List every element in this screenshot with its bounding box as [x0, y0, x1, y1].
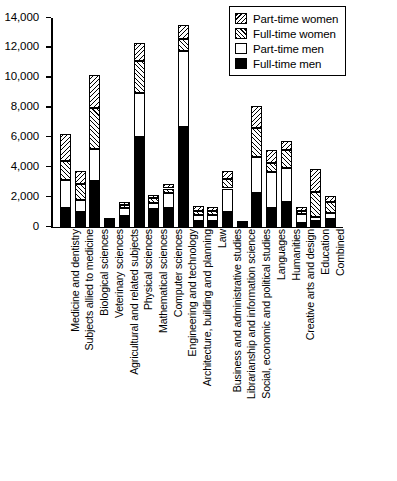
- stacked-bar: [75, 171, 86, 227]
- x-axis-label: Law: [217, 229, 228, 248]
- bar-segment-ptw: [325, 196, 336, 202]
- bar-segment-ftw: [163, 189, 174, 193]
- bar-segment-ftm: [296, 223, 307, 227]
- chart-figure: 02,0004,0006,0008,00010,00012,00014,000 …: [0, 0, 397, 481]
- x-axis-label: Physical sciences: [143, 229, 154, 310]
- bar-segment-ftm: [193, 221, 204, 227]
- bar-segment-ptw: [119, 202, 130, 205]
- bar-segment-ftm: [325, 219, 336, 227]
- bar-segment-ftw: [89, 108, 100, 150]
- stacked-bar: [60, 134, 71, 227]
- x-axis-label: Mathematical sciences: [158, 229, 169, 333]
- bar-segment-ftw: [266, 163, 277, 172]
- stacked-bar: [251, 106, 262, 227]
- legend-label: Full-time men: [253, 58, 321, 70]
- bar-segment-ptw: [237, 221, 248, 223]
- bar-segment-ptm: [60, 180, 71, 208]
- bar-segment-ptw: [296, 207, 307, 211]
- bar-segment-ftw: [222, 179, 233, 188]
- bar-segment-ptm: [148, 203, 159, 209]
- bar-segment-ptw: [266, 150, 277, 162]
- legend-label: Part-time men: [253, 43, 324, 55]
- y-axis-tick-label: 8,000: [11, 100, 39, 112]
- y-axis-tick-label: 4,000: [11, 160, 39, 172]
- bar-segment-ptw: [134, 43, 145, 60]
- bar-segment-ftm: [119, 216, 130, 227]
- bar-segment-ftm: [60, 208, 71, 227]
- y-axis-tick: 6,000: [46, 136, 51, 137]
- bar-segment-ptw: [310, 169, 321, 192]
- stacked-bar: [222, 171, 233, 227]
- x-axis-label: Biological sciences: [99, 229, 110, 316]
- full-time-men-swatch-icon: [235, 58, 247, 69]
- bar-segment-ftm: [148, 209, 159, 227]
- bar-segment-ptw: [178, 25, 189, 39]
- stacked-bar: [163, 184, 174, 227]
- chart-legend: Part-time women Full-time women Part-tim…: [229, 6, 346, 76]
- stacked-bar: [119, 202, 130, 227]
- bar-segment-ftw: [310, 192, 321, 217]
- stacked-bar: [178, 25, 189, 227]
- bar-segment-ptm: [89, 149, 100, 180]
- bar-segment-ftw: [281, 150, 292, 168]
- bar-segment-ptm: [251, 157, 262, 194]
- y-axis-tick-label: 6,000: [11, 130, 39, 142]
- y-axis-tick-label: 0: [33, 220, 39, 232]
- bar-segment-ptm: [310, 217, 321, 221]
- y-axis-tick: 10,000: [46, 76, 51, 77]
- bar-segment-ftw: [296, 211, 307, 214]
- stacked-bar: [104, 220, 115, 227]
- bar-segment-ptm: [207, 215, 218, 221]
- stacked-bar: [207, 207, 218, 227]
- y-axis-tick: 0: [46, 226, 51, 227]
- bar-segment-ptm: [119, 208, 130, 216]
- bar-segment-ftw: [134, 61, 145, 93]
- legend-label: Part-time women: [253, 13, 338, 25]
- x-axis-label: Business and administrative studies: [232, 229, 243, 392]
- bar-segment-ptm: [222, 189, 233, 213]
- y-axis-tick: 8,000: [46, 106, 51, 107]
- bar-segment-ftw: [178, 39, 189, 51]
- legend-item-full-time-men: Full-time men: [235, 56, 338, 71]
- bar-segment-ftm: [75, 212, 86, 227]
- bar-segment-ptw: [75, 171, 86, 184]
- bar-segment-ftm: [178, 127, 189, 227]
- x-axis-label: Social, economic and political studies: [261, 229, 272, 399]
- y-axis-tick-label: 12,000: [4, 40, 39, 52]
- bar-segment-ptm: [134, 93, 145, 138]
- bar-segment-ptm: [75, 200, 86, 212]
- y-axis-tick-label: 10,000: [4, 70, 39, 82]
- bar-segment-ftm: [207, 221, 218, 227]
- bar-segment-ptw: [60, 134, 71, 161]
- x-axis-label: Agricultural and related subjects: [129, 229, 140, 375]
- stacked-bar: [310, 169, 321, 227]
- bar-segment-ptw: [89, 75, 100, 108]
- bar-segment-ftm: [251, 193, 262, 227]
- part-time-men-swatch-icon: [235, 43, 247, 54]
- bar-segment-ptw: [163, 184, 174, 188]
- bar-segment-ptw: [148, 195, 159, 198]
- bar-segment-ftw: [207, 211, 218, 215]
- x-axis-label: Computer sciences: [173, 229, 184, 317]
- y-axis-tick: 14,000: [46, 17, 51, 18]
- x-axis-label: Humanities: [291, 229, 302, 281]
- bar-segment-ftw: [148, 198, 159, 202]
- bar-segment-ftm: [222, 212, 233, 227]
- y-axis-tick-label: 14,000: [4, 11, 39, 23]
- bar-segment-ftm: [237, 224, 248, 227]
- bar-segment-ftm: [310, 221, 321, 227]
- y-axis-tick: 4,000: [46, 166, 51, 167]
- bar-segment-ptw: [193, 206, 204, 210]
- part-time-women-swatch-icon: [235, 13, 247, 24]
- bar-segment-ptm: [296, 214, 307, 222]
- bar-segment-ptm: [193, 215, 204, 221]
- x-axis-label: Engineering and technology: [187, 229, 198, 356]
- stacked-bar: [89, 75, 100, 227]
- bar-segment-ftm: [104, 222, 115, 227]
- y-axis-tick: 2,000: [46, 196, 51, 197]
- bar-segment-ftm: [134, 137, 145, 227]
- stacked-bar: [266, 150, 277, 227]
- bar-segment-ptw: [251, 106, 262, 128]
- full-time-women-swatch-icon: [235, 28, 247, 39]
- bar-segment-ptw: [281, 141, 292, 151]
